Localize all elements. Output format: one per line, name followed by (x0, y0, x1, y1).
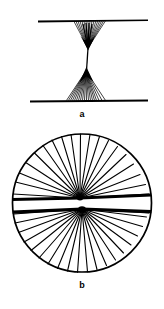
spindle-waist (86, 49, 89, 70)
cell-boundary-circle (13, 134, 152, 272)
lower-centrosome (78, 206, 86, 212)
panel-a-caption: a (0, 110, 164, 119)
bottom-plate-line (30, 100, 148, 103)
panel-b-caption: b (0, 281, 164, 290)
upper-centrosome (77, 196, 83, 200)
upper-aster-rays (13, 134, 149, 198)
upper-pole-tip (83, 40, 94, 51)
lower-aster-rays (14, 209, 149, 272)
lower-fiber-fan (67, 71, 106, 100)
top-plate-line (38, 19, 148, 22)
panel-b: b (0, 126, 164, 309)
figure-root: a (0, 0, 164, 309)
panel-a: a (0, 0, 164, 128)
